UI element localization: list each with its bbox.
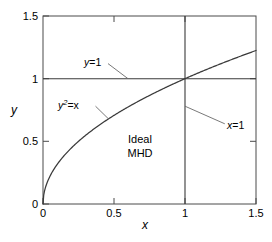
y-tick-label-0-5: 0.5 [14,136,38,147]
annotation-y-equals-1-rest: =1 [89,56,101,68]
y-tick-label-0: 0 [18,199,38,210]
y-tick-label-1: 1 [18,73,38,84]
annotation-x-equals-1-rest: =1 [232,119,244,131]
region-label-ideal-mhd: Ideal MHD [127,132,152,161]
x-axis-title: x [142,219,148,231]
x-tick-label-1: 1 [182,208,188,219]
annotation-y-squared-rest: =x [67,99,78,111]
annotation-y-equals-1: y=1 [84,56,101,69]
x-tick-label-0-5: 0.5 [106,208,121,219]
annotation-y-squared-equals-x: y2=x [58,99,79,112]
region-label-line-2: MHD [127,146,152,160]
x-tick-label-0: 0 [40,208,46,219]
y-tick-label-1-5: 1.5 [14,11,38,22]
y-axis-title: y [11,104,17,116]
mhd-stability-chart: 0 0.5 1 1.5 0 0.5 1 1.5 x y y=1 y2=x x=1… [0,0,272,242]
annotation-x-equals-1: x=1 [227,119,244,132]
x-tick-label-1-5: 1.5 [248,208,263,219]
region-label-line-1: Ideal [127,132,152,146]
